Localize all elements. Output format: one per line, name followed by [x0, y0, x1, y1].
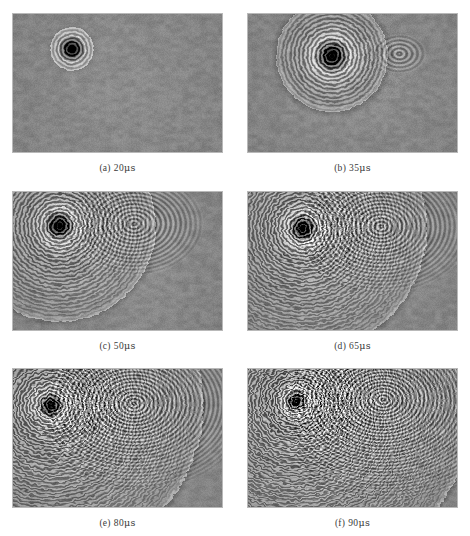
figure-panel-grid: (a)20μs (b)35μs (c)50μs (d)65μs (e)80μs: [0, 0, 470, 536]
shadowgraph-canvas-f: [248, 369, 457, 507]
panel-time-f: 90: [348, 518, 358, 528]
panel-time-unit-e: μs: [124, 517, 136, 528]
panel-time-d: 65: [349, 341, 359, 351]
panel-cell-a: (a)20μs: [0, 0, 235, 178]
shadowgraph-canvas-c: [13, 192, 222, 330]
panel-time-unit-d: μs: [359, 340, 371, 351]
panel-image-d: [247, 191, 458, 331]
panel-image-b: [247, 13, 458, 153]
panel-label-e: (e): [99, 518, 110, 528]
panel-caption-d: (d)65μs: [334, 340, 371, 351]
panel-time-b: 35: [349, 163, 359, 173]
panel-image-f: [247, 368, 458, 508]
panel-caption-f: (f)90μs: [335, 517, 370, 528]
panel-time-unit-c: μs: [124, 340, 136, 351]
panel-time-c: 50: [114, 341, 124, 351]
panel-cell-d: (d)65μs: [235, 178, 470, 355]
panel-image-e: [12, 368, 223, 508]
panel-image-c: [12, 191, 223, 331]
panel-caption-b: (b)35μs: [334, 162, 371, 173]
panel-label-f: (f): [335, 518, 345, 528]
panel-cell-f: (f)90μs: [235, 355, 470, 536]
shadowgraph-canvas-a: [13, 14, 222, 152]
panel-time-unit-a: μs: [124, 162, 136, 173]
shadowgraph-canvas-b: [248, 14, 457, 152]
shadowgraph-canvas-e: [13, 369, 222, 507]
panel-label-b: (b): [334, 163, 346, 173]
panel-label-a: (a): [99, 163, 110, 173]
panel-caption-e: (e)80μs: [99, 517, 135, 528]
shadowgraph-canvas-d: [248, 192, 457, 330]
panel-caption-c: (c)50μs: [99, 340, 135, 351]
panel-label-c: (c): [99, 341, 110, 351]
panel-image-a: [12, 13, 223, 153]
panel-time-e: 80: [114, 518, 124, 528]
panel-label-d: (d): [334, 341, 346, 351]
panel-caption-a: (a)20μs: [99, 162, 135, 173]
panel-cell-c: (c)50μs: [0, 178, 235, 355]
panel-time-unit-b: μs: [359, 162, 371, 173]
panel-time-a: 20: [114, 163, 124, 173]
panel-time-unit-f: μs: [358, 517, 370, 528]
panel-cell-b: (b)35μs: [235, 0, 470, 178]
panel-cell-e: (e)80μs: [0, 355, 235, 536]
